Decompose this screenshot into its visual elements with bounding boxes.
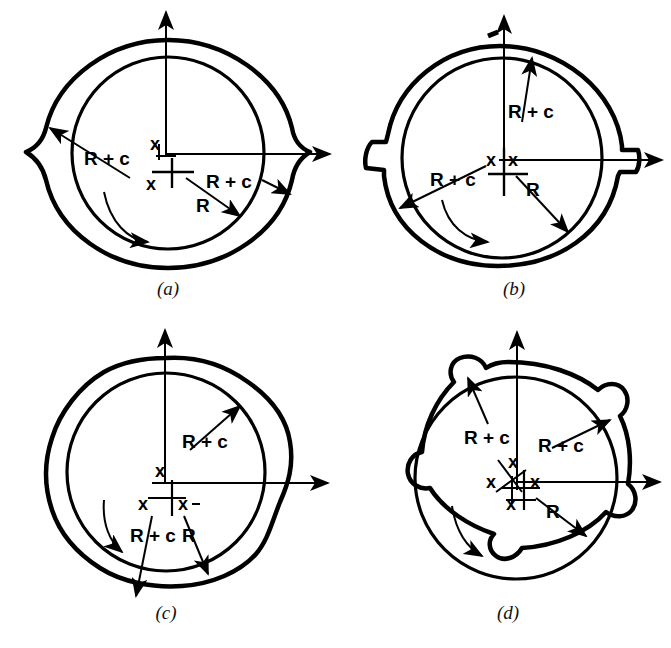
label-rc-c-lower: R + c — [130, 525, 176, 546]
center-mark-x-a-2: x — [146, 174, 156, 194]
caption-b: (b) — [484, 278, 544, 300]
panel-d: x x x x R + c R + c R (d) — [340, 320, 671, 605]
caption-a: (a) — [138, 278, 198, 300]
outer-lobe-profile-c — [46, 358, 291, 587]
label-rc-b-left: R + c — [430, 169, 476, 190]
label-rc-c-upper: R + c — [182, 431, 228, 452]
inner-bore-circle-b — [402, 58, 602, 258]
panel-b: x x R + c R + c R (b) — [340, 0, 671, 275]
label-r-b: R — [526, 179, 540, 200]
panel-c-drawing: x x x R + c R + c R — [0, 320, 340, 605]
center-mark-x-c-2: x — [138, 494, 148, 514]
rotation-arrow-a — [104, 192, 148, 242]
leader-r-b — [516, 176, 568, 232]
label-rc-a-right: R + c — [206, 171, 252, 192]
center-mark-x-d-3: x — [530, 472, 540, 492]
center-mark-x-a-1: x — [150, 134, 160, 154]
panel-b-drawing: x x R + c R + c R — [340, 0, 671, 275]
label-rc-d-right: R + c — [538, 435, 584, 456]
panel-c: x x x R + c R + c R (c) — [0, 320, 340, 605]
center-mark-x-b-1: x — [486, 150, 496, 170]
outer-lobe-profile-b — [365, 46, 639, 266]
label-r-c: R — [182, 525, 196, 546]
vertical-axis-tick-b — [488, 32, 498, 36]
panel-d-drawing: x x x x R + c R + c R — [340, 320, 671, 605]
label-r-d: R — [546, 501, 560, 522]
label-rc-d-left: R + c — [464, 427, 510, 448]
caption-c: (c) — [136, 602, 196, 624]
center-mark-x-b-2: x — [508, 150, 518, 170]
rotation-arrow-c — [104, 500, 122, 552]
center-mark-x-d-1: x — [508, 452, 518, 472]
leader-r-d — [536, 498, 586, 536]
label-r-a: R — [196, 195, 210, 216]
caption-d: (d) — [478, 602, 538, 624]
label-rc-b-top: R + c — [508, 101, 554, 122]
panel-a: x x R + c R + c R (a) — [0, 0, 340, 275]
center-mark-x-c-1: x — [155, 461, 165, 481]
outer-lobe-profile-d — [408, 356, 636, 558]
center-mark-x-c-3: x — [178, 494, 188, 514]
center-mark-x-d-2: x — [486, 472, 496, 492]
rotation-arrow-b — [442, 200, 488, 242]
center-mark-x-d-4: x — [506, 494, 516, 514]
leader-rc-a-right — [262, 180, 290, 194]
figure-multilobe-bearings: x x R + c R + c R (a) — [0, 0, 671, 648]
panel-a-drawing: x x R + c R + c R — [0, 0, 340, 275]
label-rc-a-left: R + c — [84, 148, 130, 169]
